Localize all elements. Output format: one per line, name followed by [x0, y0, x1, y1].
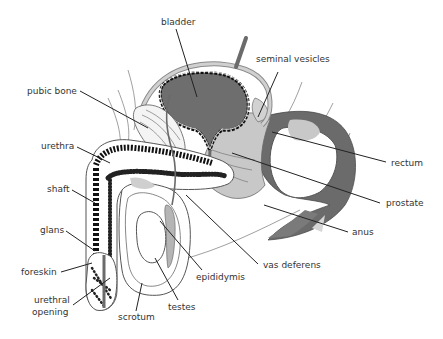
- label-rectum: rectum: [391, 158, 423, 168]
- label-shaft: shaft: [47, 184, 70, 194]
- label-epididymis: epididymis: [196, 272, 245, 282]
- label-urethral-opening-2: opening: [32, 307, 68, 317]
- label-glans: glans: [40, 225, 64, 235]
- label-bladder: bladder: [161, 17, 196, 27]
- label-vas-deferens: vas deferens: [263, 260, 321, 270]
- label-urethral-opening-1: urethral: [34, 295, 70, 305]
- label-anus: anus: [352, 227, 374, 237]
- leader-vas-deferens: [186, 195, 258, 264]
- label-seminal-vesicles: seminal vesicles: [256, 54, 330, 64]
- label-scrotum: scrotum: [118, 312, 155, 322]
- label-pubic-bone: pubic bone: [27, 86, 77, 96]
- label-urethra: urethra: [41, 141, 74, 151]
- label-testes: testes: [168, 302, 196, 312]
- rectum-shape: [257, 111, 355, 240]
- anatomy-diagram: bladder seminal vesicles pubic bone uret…: [0, 0, 443, 339]
- label-prostate: prostate: [386, 198, 424, 208]
- label-foreskin: foreskin: [21, 267, 57, 277]
